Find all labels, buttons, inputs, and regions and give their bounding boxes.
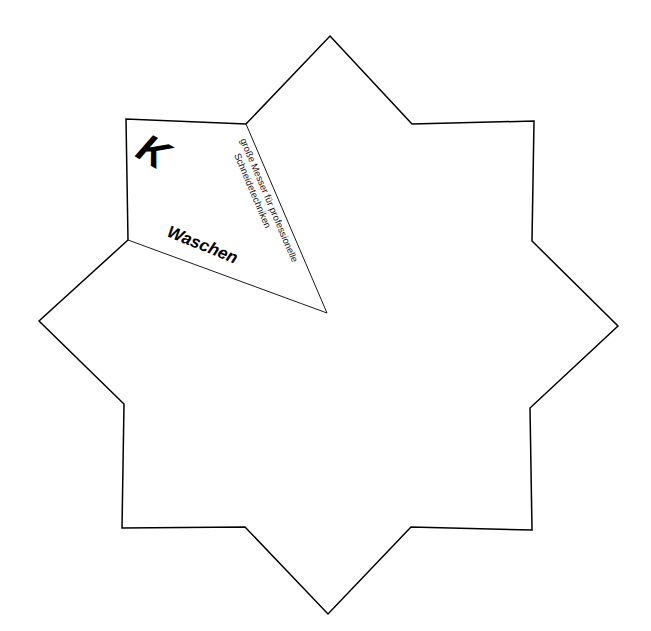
star-outline bbox=[39, 36, 618, 614]
star-diagram: K Waschen große Messer für professionell… bbox=[0, 0, 651, 631]
diagram-canvas: K Waschen große Messer für professionell… bbox=[0, 0, 651, 631]
